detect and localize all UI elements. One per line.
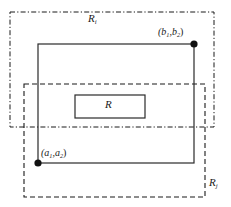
label-r-inner: R [105, 99, 112, 110]
label-ri-base: R [88, 12, 95, 24]
label-rj-subscript: j [216, 182, 218, 189]
label-r-text: R [105, 98, 112, 110]
label-point-b: (b1,b2) [158, 27, 183, 37]
rect-rj-dashed [24, 84, 205, 197]
label-a-part3: ) [63, 147, 66, 158]
rect-ri-dashdot [10, 12, 214, 127]
label-rj: Rj [209, 177, 218, 188]
label-b-part2: ,b [169, 26, 177, 37]
label-ri-subscript: i [95, 18, 97, 25]
figure-canvas: Ri Rj R (b1,b2) (a1,a2) [0, 0, 231, 207]
point-a-marker-icon [34, 159, 41, 166]
label-a-sub2: 2 [60, 152, 63, 159]
rect-interval-solid [38, 44, 194, 163]
label-b-sub2: 2 [177, 31, 180, 38]
diagram-svg [0, 0, 231, 207]
label-b-sub1: 1 [166, 31, 169, 38]
label-rj-base: R [209, 176, 216, 188]
label-ri: Ri [88, 13, 97, 24]
label-point-a: (a1,a2) [41, 148, 66, 158]
label-b-part3: ) [180, 26, 183, 37]
point-b-marker-icon [190, 40, 197, 47]
label-a-part2: ,a [52, 147, 60, 158]
label-a-sub1: 1 [49, 152, 52, 159]
